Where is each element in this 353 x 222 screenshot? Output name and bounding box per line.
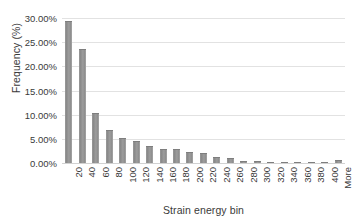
- bar-series: [62, 18, 345, 163]
- x-tick-slot: 200: [183, 165, 196, 203]
- x-tick-slot: 280: [237, 165, 250, 203]
- bar-slot: [224, 18, 237, 163]
- bar-slot: [75, 18, 88, 163]
- bar-slot: [143, 18, 156, 163]
- bar: [65, 21, 72, 163]
- y-axis-tick-label: 15.00%: [25, 85, 57, 96]
- bar: [146, 146, 153, 163]
- y-axis-tick-label: 20.00%: [25, 61, 57, 72]
- bar: [254, 161, 261, 163]
- bar-slot: [331, 18, 344, 163]
- x-tick-slot: 340: [278, 165, 291, 203]
- bar: [92, 113, 99, 163]
- x-tick-slot: 60: [89, 165, 102, 203]
- bar: [106, 130, 113, 163]
- bar: [335, 160, 342, 163]
- x-tick-slot: 40: [75, 165, 88, 203]
- bar-slot: [129, 18, 142, 163]
- bar-slot: [318, 18, 331, 163]
- bar-slot: [116, 18, 129, 163]
- x-tick-slot: More: [331, 165, 344, 203]
- bar-slot: [264, 18, 277, 163]
- y-axis-tick-label: 30.00%: [25, 13, 57, 24]
- x-tick-slot: 240: [210, 165, 223, 203]
- y-axis-tick-label: 0.00%: [30, 158, 57, 169]
- bar: [160, 149, 167, 164]
- bar: [79, 49, 86, 163]
- x-tick-slot: 180: [170, 165, 183, 203]
- bar: [200, 153, 207, 163]
- bar-slot: [197, 18, 210, 163]
- bar: [267, 162, 274, 164]
- x-tick-slot: 160: [156, 165, 169, 203]
- x-tick-slot: 260: [224, 165, 237, 203]
- bar: [213, 157, 220, 163]
- bar-slot: [237, 18, 250, 163]
- bar: [240, 161, 247, 163]
- bar-slot: [170, 18, 183, 163]
- bar-slot: [210, 18, 223, 163]
- bar-slot: [251, 18, 264, 163]
- y-axis-tick-label: 5.00%: [30, 133, 57, 144]
- x-tick-slot: 100: [116, 165, 129, 203]
- bar: [133, 141, 140, 163]
- bar: [321, 162, 328, 164]
- bar-slot: [62, 18, 75, 163]
- x-axis-tick-labels: 2040608010012014016018020022024026028030…: [62, 165, 345, 203]
- bar: [173, 149, 180, 163]
- axis-baseline: [62, 163, 345, 164]
- x-tick-slot: 320: [264, 165, 277, 203]
- y-axis-tick-labels: 30.00%25.00%20.00%15.00%10.00%5.00%0.00%: [0, 0, 62, 222]
- x-tick-slot: 360: [291, 165, 304, 203]
- x-tick-slot: 120: [129, 165, 142, 203]
- bar-slot: [156, 18, 169, 163]
- bar-slot: [304, 18, 317, 163]
- x-tick-slot: 300: [251, 165, 264, 203]
- x-axis-title: Strain energy bin: [62, 204, 345, 216]
- x-tick-slot: 80: [102, 165, 115, 203]
- y-axis-tick-label: 25.00%: [25, 37, 57, 48]
- bar: [281, 162, 288, 164]
- bar: [308, 162, 315, 164]
- bar: [186, 152, 193, 163]
- bar-slot: [89, 18, 102, 163]
- y-axis-tick-label: 10.00%: [25, 109, 57, 120]
- plot-area: [62, 18, 345, 163]
- x-tick-slot: 380: [304, 165, 317, 203]
- x-tick-slot: 400: [318, 165, 331, 203]
- bar: [119, 138, 126, 163]
- bar: [294, 162, 301, 164]
- bar-slot: [183, 18, 196, 163]
- x-tick-slot: 20: [62, 165, 75, 203]
- bar-slot: [102, 18, 115, 163]
- x-tick-slot: 220: [197, 165, 210, 203]
- x-tick-slot: 140: [143, 165, 156, 203]
- bar: [227, 158, 234, 163]
- bar-slot: [291, 18, 304, 163]
- bar-slot: [278, 18, 291, 163]
- x-axis-tick-label: More: [342, 167, 353, 189]
